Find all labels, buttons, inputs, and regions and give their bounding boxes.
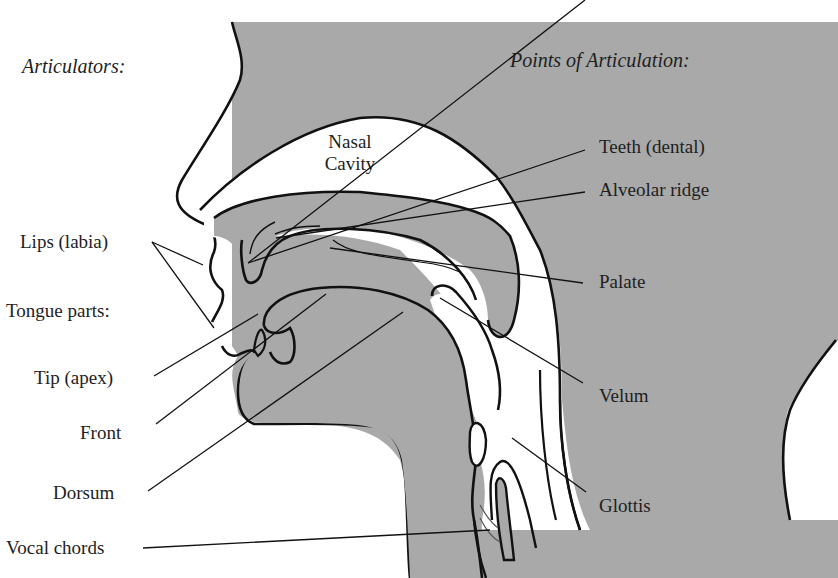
label-alveolar-ridge: Alveolar ridge	[599, 180, 709, 199]
label-dorsum: Dorsum	[53, 483, 114, 502]
nasal-cavity-label: Nasal Cavity	[290, 132, 410, 173]
label-teeth: Teeth (dental)	[599, 137, 705, 156]
vocal-tract-diagram	[0, 0, 838, 578]
epiglottis	[470, 423, 487, 466]
label-velum: Velum	[599, 386, 649, 405]
heading-articulators: Articulators:	[22, 56, 125, 76]
label-glottis: Glottis	[599, 496, 651, 515]
label-tip: Tip (apex)	[34, 368, 113, 387]
label-tongue-parts: Tongue parts:	[6, 301, 110, 320]
label-front: Front	[80, 423, 121, 442]
label-palate: Palate	[599, 272, 645, 291]
nasal-cavity-line2: Cavity	[290, 154, 410, 173]
label-vocal-chords: Vocal chords	[6, 538, 104, 557]
heading-points-of-articulation: Points of Articulation:	[510, 50, 690, 70]
label-lips: Lips (labia)	[20, 232, 108, 251]
nasal-cavity-line1: Nasal	[290, 132, 410, 151]
